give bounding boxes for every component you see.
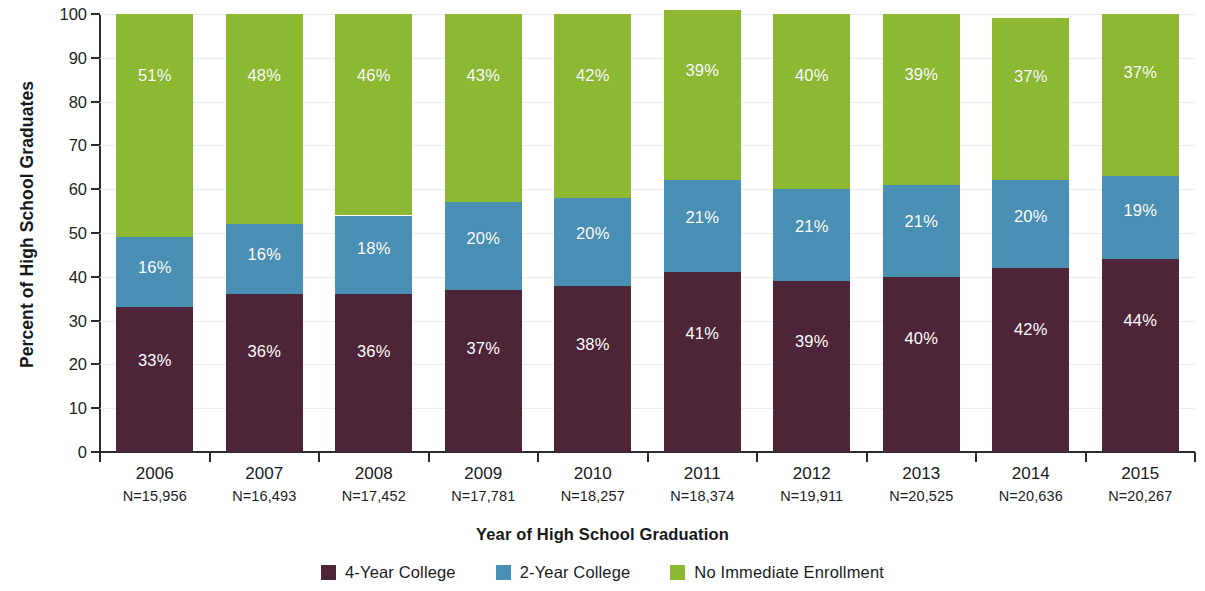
bar-group[interactable]: 40%21%39%	[883, 14, 960, 452]
x-axis-tick	[428, 452, 430, 462]
bar-group[interactable]: 39%21%40%	[773, 14, 850, 452]
bar-segment[interactable]: 48%	[226, 14, 303, 224]
bar-segment[interactable]: 21%	[883, 185, 960, 277]
category-n-label: N=17,452	[319, 488, 429, 506]
y-axis-tick	[91, 144, 100, 146]
bar-segment-label: 19%	[1123, 201, 1157, 220]
category-year-label: 2015	[1086, 464, 1196, 485]
bar-segment-label: 20%	[466, 229, 500, 248]
category-year-label: 2006	[100, 464, 210, 485]
bar-segment[interactable]: 36%	[226, 294, 303, 452]
legend-item[interactable]: No Immediate Enrollment	[670, 563, 884, 582]
bar-segment-label: 37%	[1014, 67, 1048, 86]
bar-segment[interactable]: 19%	[1102, 176, 1179, 259]
bar-segment-label: 39%	[685, 61, 719, 80]
y-axis-tick-label: 90	[27, 48, 87, 67]
y-axis-tick-label: 100	[27, 5, 87, 24]
y-axis-tick	[91, 57, 100, 59]
bar-segment[interactable]: 40%	[883, 277, 960, 452]
y-axis-tick	[91, 276, 100, 278]
bar-group[interactable]: 37%20%43%	[445, 14, 522, 452]
y-axis-tick-label: 20	[27, 355, 87, 374]
y-axis-tick-label: 80	[27, 92, 87, 111]
bar-segment[interactable]: 39%	[883, 14, 960, 185]
bar-segment[interactable]: 51%	[116, 14, 193, 237]
bar-segment-label: 41%	[685, 324, 719, 343]
bar-segment[interactable]: 18%	[335, 216, 412, 295]
y-axis-tick	[91, 188, 100, 190]
y-axis-tick-label: 0	[27, 443, 87, 462]
bar-segment[interactable]: 39%	[664, 10, 741, 181]
bar-group[interactable]: 36%16%48%	[226, 14, 303, 452]
bar-group[interactable]: 33%16%51%	[116, 14, 193, 452]
bar-segment[interactable]: 16%	[226, 224, 303, 294]
bar-segment[interactable]: 21%	[664, 180, 741, 272]
bar-group[interactable]: 42%20%37%	[992, 14, 1069, 452]
y-axis-tick	[91, 101, 100, 103]
category-year-label: 2013	[867, 464, 977, 485]
bar-segment[interactable]: 38%	[554, 286, 631, 452]
bar-segment[interactable]: 43%	[445, 14, 522, 202]
chart-legend: 4-Year College2-Year CollegeNo Immediate…	[0, 563, 1205, 582]
x-axis-tick	[1085, 452, 1087, 462]
bar-segment[interactable]: 42%	[992, 268, 1069, 452]
bar-segment-label: 33%	[138, 351, 172, 370]
category-n-label: N=18,257	[538, 488, 648, 506]
bar-group[interactable]: 38%20%42%	[554, 14, 631, 452]
bar-segment[interactable]: 33%	[116, 307, 193, 452]
x-axis-category: 2014N=20,636	[976, 464, 1086, 505]
y-axis-tick	[91, 363, 100, 365]
y-axis-tick-label: 60	[27, 180, 87, 199]
category-n-label: N=20,525	[867, 488, 977, 506]
bar-segment-label: 40%	[795, 66, 829, 85]
bar-segment-label: 21%	[795, 217, 829, 236]
x-axis-category: 2006N=15,956	[100, 464, 210, 505]
bar-segment[interactable]: 16%	[116, 237, 193, 307]
bar-group[interactable]: 44%19%37%	[1102, 14, 1179, 452]
bar-segment[interactable]: 41%	[664, 272, 741, 452]
y-axis-tick	[91, 407, 100, 409]
bar-segment[interactable]: 40%	[773, 14, 850, 189]
x-axis-tick	[866, 452, 868, 462]
bar-segment[interactable]: 36%	[335, 294, 412, 452]
bar-segment[interactable]: 37%	[445, 290, 522, 452]
category-year-label: 2012	[757, 464, 867, 485]
plot-area: 33%16%51%36%16%48%36%18%46%37%20%43%38%2…	[100, 14, 1195, 452]
bar-segment-label: 16%	[138, 258, 172, 277]
x-axis-category: 2010N=18,257	[538, 464, 648, 505]
legend-swatch-icon	[321, 565, 336, 580]
bar-segment[interactable]: 39%	[773, 281, 850, 452]
category-n-label: N=20,267	[1086, 488, 1196, 506]
x-axis-category: 2008N=17,452	[319, 464, 429, 505]
bar-segment[interactable]: 20%	[445, 202, 522, 290]
x-axis-tick	[537, 452, 539, 462]
bar-segment-label: 40%	[904, 329, 938, 348]
bar-segment[interactable]: 44%	[1102, 259, 1179, 452]
legend-label: 4-Year College	[345, 563, 456, 582]
bar-segment-label: 38%	[576, 335, 610, 354]
bar-segment[interactable]: 21%	[773, 189, 850, 281]
category-n-label: N=15,956	[100, 488, 210, 506]
bar-segment-label: 36%	[357, 342, 391, 361]
bar-segment[interactable]: 37%	[1102, 14, 1179, 176]
category-n-label: N=16,493	[210, 488, 320, 506]
bar-segment[interactable]: 37%	[992, 18, 1069, 180]
bar-segment[interactable]: 20%	[992, 180, 1069, 268]
bar-segment[interactable]: 42%	[554, 14, 631, 198]
bar-segment-label: 48%	[247, 66, 281, 85]
bar-segment[interactable]: 46%	[335, 14, 412, 215]
y-axis-tick-label: 10	[27, 399, 87, 418]
bar-segment-label: 37%	[466, 339, 500, 358]
legend-item[interactable]: 4-Year College	[321, 563, 456, 582]
bar-group[interactable]: 36%18%46%	[335, 14, 412, 452]
bar-segment-label: 20%	[1014, 207, 1048, 226]
legend-item[interactable]: 2-Year College	[496, 563, 631, 582]
legend-swatch-icon	[670, 565, 685, 580]
bar-segment-label: 39%	[795, 332, 829, 351]
bar-group[interactable]: 41%21%39%	[664, 14, 741, 452]
bar-segment[interactable]: 20%	[554, 198, 631, 286]
bar-segment-label: 21%	[685, 208, 719, 227]
bar-segment-label: 42%	[1014, 320, 1048, 339]
y-axis-tick-label: 30	[27, 311, 87, 330]
y-axis-tick	[91, 13, 100, 15]
